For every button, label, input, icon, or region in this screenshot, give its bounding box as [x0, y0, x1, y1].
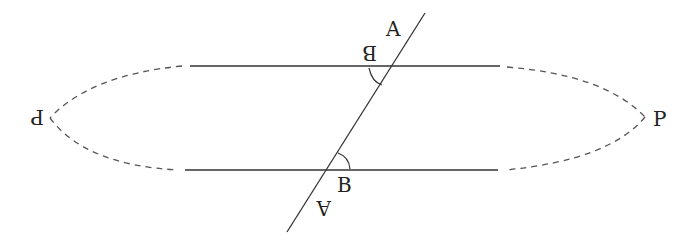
- top-angle-arc: [369, 68, 382, 85]
- label-top-B-rotated: B: [362, 41, 377, 65]
- label-bottom-A-rotated: A: [316, 196, 332, 220]
- label-top-A: A: [385, 17, 401, 41]
- left-dashed-curve-top: [50, 66, 182, 118]
- right-dashed-curve-bottom: [505, 117, 645, 170]
- right-dashed-curve-top: [507, 67, 645, 117]
- label-right-P: P: [653, 107, 666, 131]
- transversal-line: [287, 13, 425, 232]
- bottom-angle-arc: [338, 153, 350, 169]
- left-dashed-curve-bottom: [50, 118, 178, 170]
- parallel-lines-diagram: A B B A P P: [0, 0, 691, 243]
- label-left-P-rotated: P: [31, 105, 44, 129]
- diagram-canvas: A B B A P P: [0, 0, 691, 243]
- label-bottom-B: B: [337, 173, 352, 197]
